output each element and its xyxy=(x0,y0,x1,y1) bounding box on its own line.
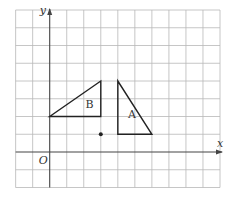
point-center xyxy=(99,132,103,136)
y-axis-arrow-icon xyxy=(47,8,52,15)
triangle-b-label: B xyxy=(85,98,93,111)
coordinate-plane: xyOBA xyxy=(0,0,237,199)
origin-label: O xyxy=(39,154,48,167)
triangle-a-label: A xyxy=(127,108,137,121)
x-axis-arrow-icon xyxy=(216,150,223,155)
coordinate-grid-diagram: xyOBA xyxy=(0,0,237,199)
x-axis-label: x xyxy=(217,137,224,150)
y-axis-label: y xyxy=(39,4,47,17)
